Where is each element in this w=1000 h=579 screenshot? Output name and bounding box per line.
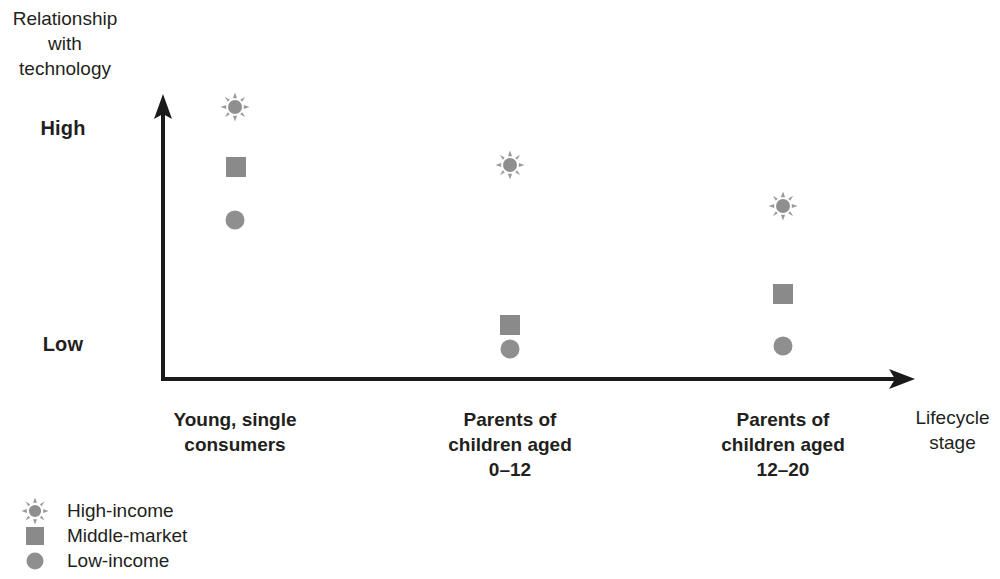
- datapoint-low-income-parents-12-20: [774, 337, 793, 356]
- y-tick-label-high: High: [8, 117, 118, 140]
- legend-item-low-income: Low-income: [20, 548, 187, 573]
- legend-label-high-income: High-income: [67, 498, 174, 523]
- sun-icon: [495, 150, 525, 180]
- sun-icon: [220, 92, 250, 122]
- circle-icon: [27, 552, 44, 569]
- chart-axes: [0, 0, 1000, 579]
- legend-label-low-income: Low-income: [67, 548, 169, 573]
- datapoint-high-income-parents-12-20: [768, 191, 798, 221]
- x-axis-title: Lifecycle stage: [905, 405, 1000, 455]
- legend-swatch-high-income: [20, 498, 50, 523]
- legend-swatch-middle-market: [20, 523, 50, 548]
- square-icon: [26, 527, 44, 545]
- y-axis-title: Relationship with technology: [0, 6, 130, 81]
- x-category-label-1: Parents of children aged 0–12: [395, 407, 625, 482]
- datapoint-middle-market-young-single-consumers: [226, 157, 246, 177]
- legend-swatch-low-income: [20, 548, 50, 573]
- datapoint-middle-market-parents-0-12: [500, 315, 520, 335]
- legend-item-high-income: High-income: [20, 498, 187, 523]
- chart-canvas: Relationship with technology Lifecycle s…: [0, 0, 1000, 579]
- sun-icon: [21, 497, 49, 525]
- y-axis-arrowhead: [154, 94, 172, 119]
- datapoint-middle-market-parents-12-20: [773, 284, 793, 304]
- legend-label-middle-market: Middle-market: [67, 523, 187, 548]
- chart-legend: High-income Middle-market Low-income: [20, 498, 187, 573]
- datapoint-low-income-young-single-consumers: [226, 211, 245, 230]
- x-axis-arrowhead: [889, 369, 915, 389]
- x-category-label-2: Parents of children aged 12–20: [668, 407, 898, 482]
- sun-icon: [768, 191, 798, 221]
- y-tick-label-low: Low: [8, 333, 118, 356]
- datapoint-low-income-parents-0-12: [501, 340, 520, 359]
- legend-item-middle-market: Middle-market: [20, 523, 187, 548]
- datapoint-high-income-young-single-consumers: [220, 92, 250, 122]
- x-category-label-0: Young, single consumers: [120, 407, 350, 457]
- datapoint-high-income-parents-0-12: [495, 150, 525, 180]
